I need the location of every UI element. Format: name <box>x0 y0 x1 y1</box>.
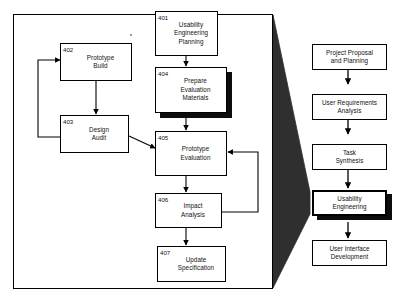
expansion-callout-wedge <box>273 15 310 288</box>
node-user-requirements-analysis[interactable]: User Requirements Analysis <box>312 94 387 120</box>
node-406-label: Impact Analysis <box>180 202 206 219</box>
node-404-ref: 404 <box>158 70 168 77</box>
node-407-update-specification[interactable]: 407 Update Specification <box>157 246 226 282</box>
node-407-ref: 407 <box>160 249 170 256</box>
node-405-prototype-evaluation[interactable]: 405 Prototype Evaluation <box>155 131 227 176</box>
node-403-ref: 403 <box>63 118 73 125</box>
node-403-label: Design Audit <box>88 126 110 143</box>
scan-speck <box>130 34 132 36</box>
node-401-ref: 401 <box>158 14 168 21</box>
node-user-interface-development[interactable]: User Interface Development <box>312 240 387 266</box>
node-406-ref: 406 <box>158 196 168 203</box>
node-402-label: Prototype Build <box>86 54 115 71</box>
node-usability-engineering-label: Usability Engineering <box>331 195 367 212</box>
node-404-label: Prepare Evaluation Materials <box>180 77 212 102</box>
node-405-label: Prototype Evaluation <box>180 145 212 162</box>
node-403-design-audit[interactable]: 403 Design Audit <box>60 115 129 153</box>
usability-engineering-detail-frame <box>13 14 273 289</box>
diagram-canvas: 401 Usability Engineering Planning 402 P… <box>0 0 403 306</box>
node-user-interface-development-label: User Interface Development <box>328 245 370 262</box>
node-task-synthesis[interactable]: Task Synthesis <box>312 144 387 170</box>
node-user-requirements-label: User Requirements Analysis <box>321 99 378 116</box>
node-usability-engineering[interactable]: Usability Engineering <box>312 190 387 216</box>
node-407-label: Update Specification <box>177 256 215 273</box>
node-401-label: Usability Engineering Planning <box>173 21 209 46</box>
node-task-synthesis-label: Task Synthesis <box>335 149 365 166</box>
node-406-impact-analysis[interactable]: 406 Impact Analysis <box>155 193 222 228</box>
node-402-prototype-build[interactable]: 402 Prototype Build <box>60 43 132 81</box>
node-404-prepare-evaluation-materials[interactable]: 404 Prepare Evaluation Materials <box>155 67 227 113</box>
node-405-ref: 405 <box>158 134 168 141</box>
node-401-usability-engineering-planning[interactable]: 401 Usability Engineering Planning <box>155 11 218 56</box>
node-project-proposal-and-planning[interactable]: Project Proposal and Planning <box>312 44 387 70</box>
node-402-ref: 402 <box>63 46 73 53</box>
node-project-proposal-label: Project Proposal and Planning <box>325 49 374 66</box>
